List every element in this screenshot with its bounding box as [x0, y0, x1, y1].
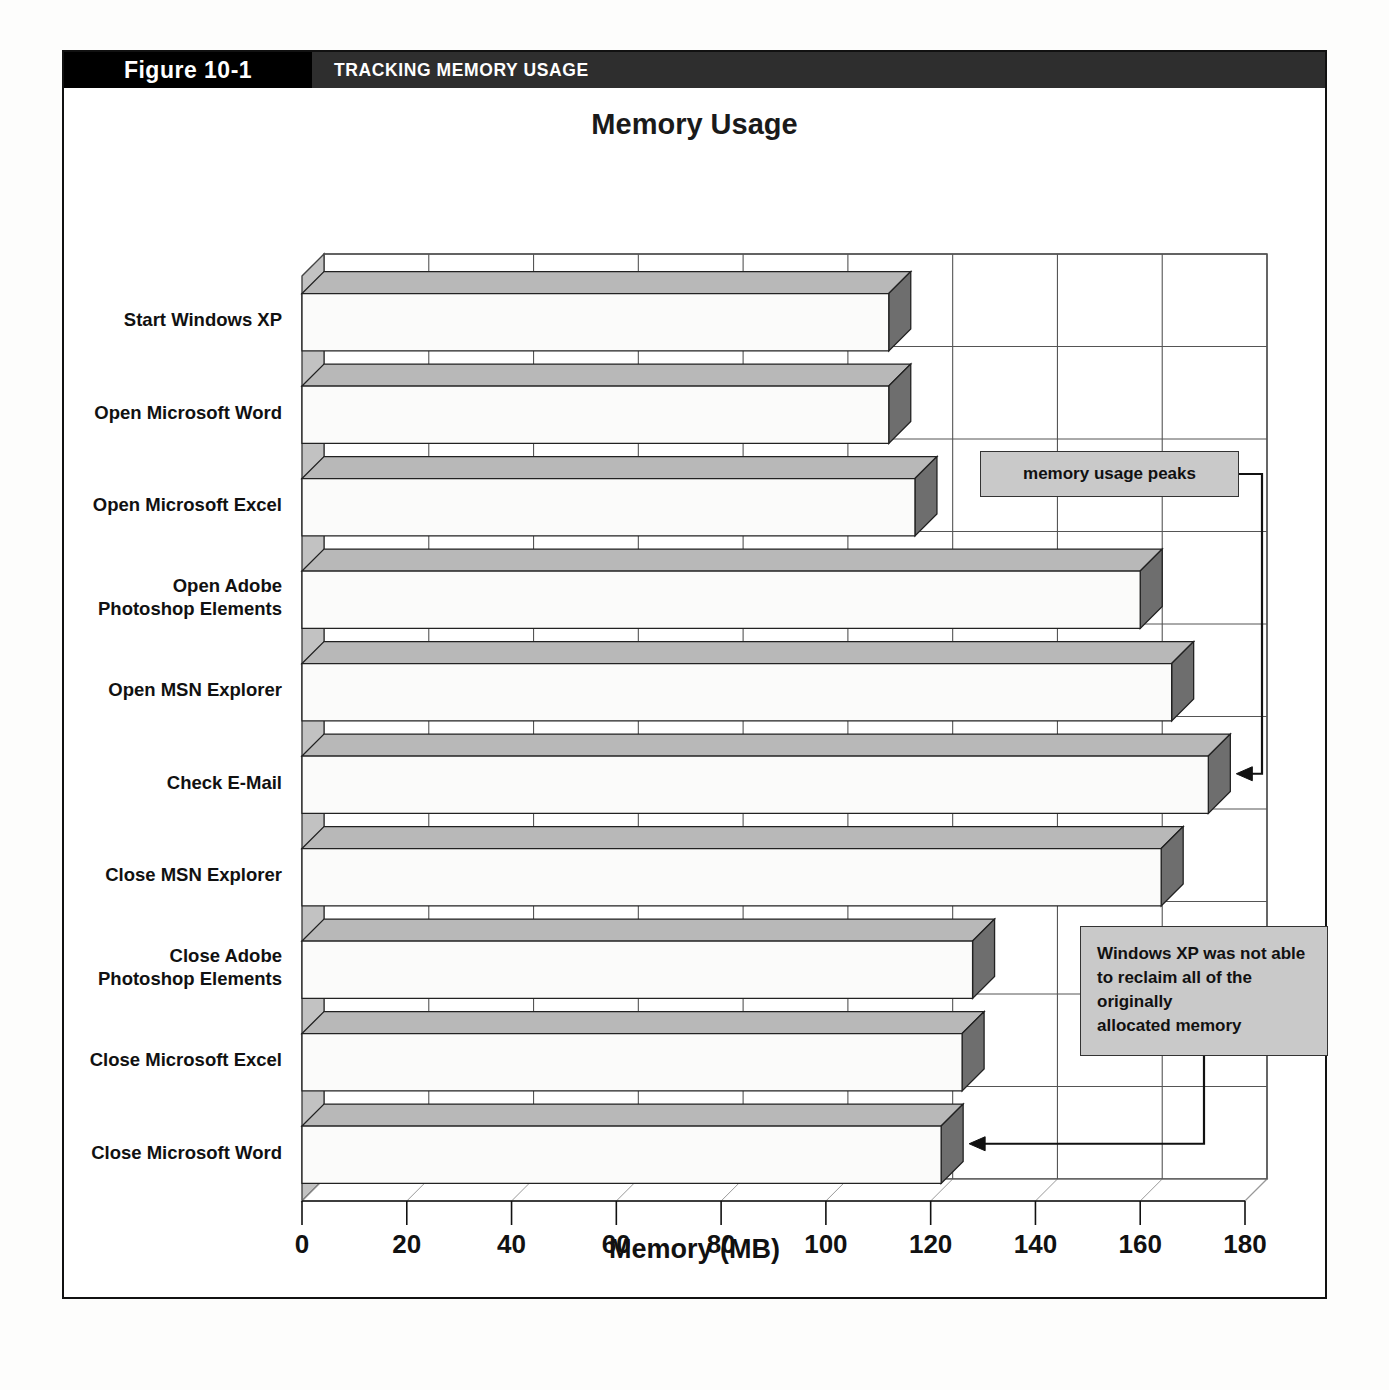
bar-front-face — [302, 849, 1161, 906]
bar-top-face — [302, 827, 1183, 849]
bar-1 — [302, 272, 911, 351]
bar-9 — [302, 1012, 984, 1091]
annotation-text: memory usage peaks — [1023, 462, 1196, 486]
bar-top-face — [302, 734, 1230, 756]
x-axis-title: Memory (MB) — [64, 1234, 1325, 1265]
chart-container: Memory Usage Start Windows XPOpen Micros… — [64, 88, 1325, 1297]
bar-2 — [302, 364, 911, 443]
bar-top-face — [302, 272, 911, 294]
annotation-text-line-1: Windows XP was not able — [1097, 942, 1311, 966]
bar-front-face — [302, 479, 915, 536]
bar-front-face — [302, 571, 1140, 628]
bar-6 — [302, 734, 1230, 813]
bar-front-face — [302, 386, 889, 443]
bar-front-face — [302, 294, 889, 351]
bar-5 — [302, 642, 1194, 721]
category-label-5: Open MSN Explorer — [72, 678, 282, 702]
category-label-3: Open Microsoft Excel — [72, 493, 282, 517]
category-label-9: Close Microsoft Excel — [72, 1048, 282, 1072]
annotation-text-line-3: allocated memory — [1097, 1014, 1311, 1038]
annotation-text-line-2: to reclaim all of the originally — [1097, 966, 1311, 1014]
bar-top-face — [302, 457, 937, 479]
annotation-reclaim-note: Windows XP was not ableto reclaim all of… — [1080, 926, 1328, 1056]
bar-top-face — [302, 1104, 963, 1126]
category-label-1: Start Windows XP — [72, 308, 282, 332]
bar-8 — [302, 919, 995, 998]
bar-7 — [302, 827, 1183, 906]
bar-top-face — [302, 642, 1194, 664]
bar-4 — [302, 549, 1162, 628]
figure-caption-bar: Figure 10-1 TRACKING MEMORY USAGE — [64, 52, 1325, 88]
figure-frame: Figure 10-1 TRACKING MEMORY USAGE Memory… — [62, 50, 1327, 1299]
bar-3 — [302, 457, 937, 536]
bar-front-face — [302, 1034, 962, 1091]
bar-top-face — [302, 364, 911, 386]
figure-title-cell: TRACKING MEMORY USAGE — [312, 52, 1325, 88]
category-label-6: Check E-Mail — [72, 771, 282, 795]
bar-top-face — [302, 1012, 984, 1034]
bar-front-face — [302, 664, 1172, 721]
annotation-memory-usage-peaks: memory usage peaks — [980, 451, 1239, 497]
category-label-8: Close AdobePhotoshop Elements — [72, 944, 282, 991]
bar-10 — [302, 1104, 963, 1183]
category-label-7: Close MSN Explorer — [72, 863, 282, 887]
category-label-4: Open AdobePhotoshop Elements — [72, 574, 282, 621]
figure-title: TRACKING MEMORY USAGE — [334, 60, 589, 81]
bar-top-face — [302, 549, 1162, 571]
figure-number-cell: Figure 10-1 — [64, 52, 312, 88]
category-label-10: Close Microsoft Word — [72, 1141, 282, 1165]
bar-front-face — [302, 1126, 941, 1183]
figure-number: Figure 10-1 — [124, 57, 252, 84]
bar-top-face — [302, 919, 995, 941]
category-label-2: Open Microsoft Word — [72, 401, 282, 425]
bar-front-face — [302, 756, 1208, 813]
bar-front-face — [302, 941, 973, 998]
